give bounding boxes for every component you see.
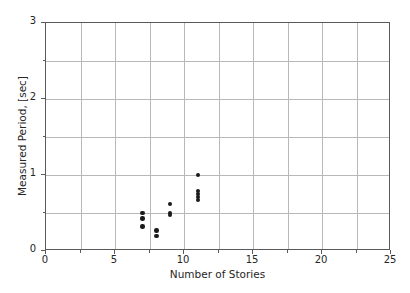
x-tick-label: 10 [163,254,203,265]
x-tick-label: 25 [370,254,410,265]
x-tick-minor [356,250,357,253]
data-point [154,234,158,238]
x-tick-label: 20 [301,254,341,265]
y-tick [41,174,45,175]
y-tick-label: 3 [0,15,36,26]
data-point [140,211,144,215]
y-tick [41,98,45,99]
y-tick-label: 2 [0,91,36,102]
x-tick-minor [218,250,219,253]
x-tick-minor [287,250,288,253]
y-tick-minor [43,136,46,137]
data-point [140,224,144,228]
plot-area [45,22,390,250]
x-tick-label: 15 [232,254,272,265]
data-point [154,228,158,232]
data-point [168,202,172,206]
x-tick-minor [80,250,81,253]
y-tick-minor [43,60,46,61]
y-tick-label: 0 [0,243,36,254]
data-point [168,213,172,217]
data-point [196,173,200,177]
x-tick-label: 5 [94,254,134,265]
data-point [140,216,144,220]
data-layer [46,23,389,249]
y-tick [41,250,45,251]
x-axis-label: Number of Stories [45,268,390,280]
x-tick-minor [149,250,150,253]
scatter-plot-figure: Measured Period, [sec] 0510152025 0123 N… [0,0,410,293]
x-tick-label: 0 [25,254,65,265]
y-tick-label: 1 [0,167,36,178]
y-tick-minor [43,212,46,213]
y-axis-label: Measured Period, [sec] [14,22,30,250]
data-point [196,198,200,202]
y-tick [41,22,45,23]
